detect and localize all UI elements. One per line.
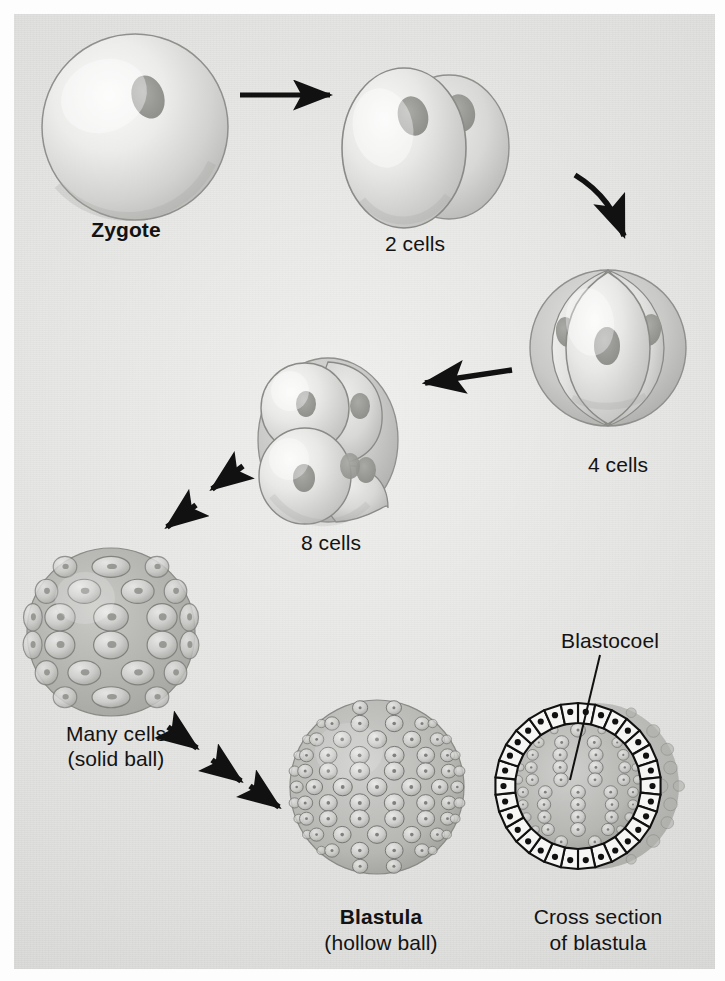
- art-morula: [23, 548, 199, 716]
- art-two-cells: [342, 68, 509, 228]
- arrow-4-to-8: [425, 370, 512, 383]
- art-cross-section: [495, 703, 684, 869]
- label-eight-cells: 8 cells: [301, 530, 361, 555]
- label-morula-line2: (solid ball): [68, 746, 165, 771]
- diagram-artwork: [0, 0, 725, 981]
- art-eight-cells: [258, 358, 398, 524]
- label-zygote: Zygote: [91, 217, 160, 242]
- label-four-cells: 4 cells: [588, 452, 648, 477]
- art-blastula: [289, 700, 465, 874]
- page-margin-left: [0, 0, 14, 981]
- label-blastula-line2: (hollow ball): [324, 930, 437, 955]
- label-blastocoel: Blastocoel: [561, 628, 659, 653]
- arrow-8-to-morula: [167, 466, 243, 527]
- label-cross-section-line1: Cross section: [534, 904, 663, 929]
- label-two-cells: 2 cells: [385, 231, 445, 256]
- arrow-morula-to-blastula: [168, 727, 279, 807]
- cleavage-diagram: Zygote 2 cells 4 cells 8 cells Many cell…: [0, 0, 725, 981]
- page-margin-right: [715, 0, 725, 981]
- page-margin-top: [0, 0, 725, 14]
- label-morula-line1: Many cells: [66, 721, 166, 746]
- art-four-cells: [530, 270, 686, 426]
- label-cross-section-line2: of blastula: [550, 930, 647, 955]
- page-margin-bottom: [0, 969, 725, 981]
- arrow-2-to-4: [575, 175, 624, 236]
- label-blastula-line1: Blastula: [340, 904, 423, 929]
- art-zygote: [42, 34, 228, 220]
